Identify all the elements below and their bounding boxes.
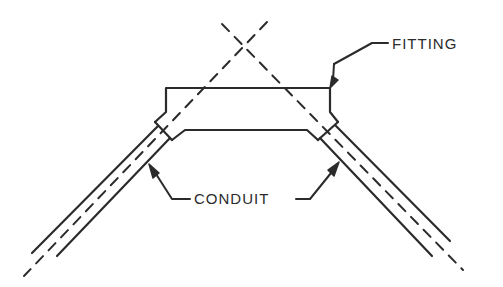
left-centerline: [24, 22, 267, 276]
conduit-right-leader-line: [296, 173, 331, 199]
fitting-body: [155, 88, 338, 122]
conduit-left-leader-line: [156, 174, 190, 199]
left-conduit-inner-wall: [57, 138, 170, 256]
fitting-leader-segment: [333, 64, 334, 80]
right-conduit-inner-wall: [320, 138, 432, 256]
right-conduit-outer-wall: [336, 126, 450, 241]
left-conduit-outer-wall: [32, 126, 158, 253]
fitting-right-collar: [318, 122, 338, 140]
conduit-label: CONDUIT: [194, 191, 269, 206]
fitting-label: FITTING: [392, 36, 457, 51]
right-centerline: [222, 24, 463, 270]
fitting-leader-line: [334, 43, 388, 64]
fitting-bottom-edge: [172, 130, 318, 140]
